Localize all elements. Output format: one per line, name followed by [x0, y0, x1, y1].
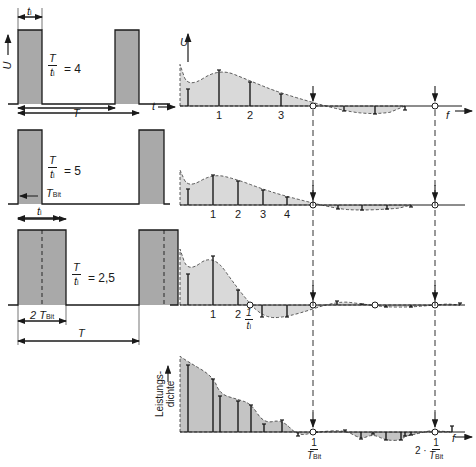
pulse-rect [18, 130, 42, 204]
pulse-train-1 [8, 30, 170, 104]
first-zero-label: 1ti [245, 308, 253, 331]
marker-1-label: 1TBit [307, 438, 321, 461]
pulse-rect [115, 30, 139, 104]
tick-4: 4 [284, 209, 290, 220]
spectrum-panels [168, 34, 472, 440]
spectrum-u-label: U [180, 37, 188, 48]
tick-2: 2 [247, 110, 253, 121]
tick-3: 3 [260, 209, 266, 220]
ratio-value-1: = 4 [64, 62, 81, 76]
u-axis-label: U [2, 62, 13, 70]
ratio-fraction-3: Tti [72, 262, 81, 287]
tbit-label: TBit [46, 188, 61, 199]
f-axis-label-1: f [446, 110, 449, 121]
pulse-train-2 [8, 130, 170, 204]
zero-crossing-marker [310, 429, 316, 435]
spectrum-2 [180, 170, 465, 210]
spectrum-1 [180, 64, 472, 114]
diagram-canvas: U ti Tti = 4 T t Tti = 5 TBit ti Tti = 2… [0, 0, 476, 467]
pulse-train-3 [8, 230, 178, 305]
tick-1: 1 [216, 110, 222, 121]
spectrum-4 [180, 356, 472, 440]
tick-2: 2 [235, 309, 241, 320]
ratio-fraction-2: Tti [48, 155, 57, 180]
tick-3: 3 [278, 110, 284, 121]
marker-2-label: 1TBit [429, 438, 443, 461]
guide-lines [313, 110, 435, 412]
two-tbit-label: 2 TBit [30, 310, 54, 321]
ti-label-2: ti [37, 206, 42, 217]
spectrum-3 [180, 249, 465, 318]
pulse-rect [139, 230, 178, 305]
period-label-1: T [73, 108, 80, 119]
zero-crossing-marker [432, 103, 438, 109]
period-label-3: T [78, 328, 85, 339]
ratio-fraction-1: Tti [48, 53, 57, 78]
ti-label-1: ti [27, 6, 32, 17]
zero-crossing-marker [432, 429, 438, 435]
tick-1: 1 [210, 209, 216, 220]
marker-2-prefix: 2 · [415, 446, 427, 456]
pulse-rect [18, 30, 42, 104]
f-axis-label-4: f [452, 433, 455, 444]
power-density-label: Leistungs-dichte [154, 371, 176, 417]
zero-crossing-marker [310, 103, 316, 109]
time-domain-panels [8, 8, 178, 345]
t-axis-label: t [152, 101, 155, 112]
pulse-rect [139, 130, 164, 204]
tick-2: 2 [235, 209, 241, 220]
ratio-value-3: = 2,5 [88, 271, 115, 285]
tick-1: 1 [210, 309, 216, 320]
ratio-value-2: = 5 [64, 164, 81, 178]
